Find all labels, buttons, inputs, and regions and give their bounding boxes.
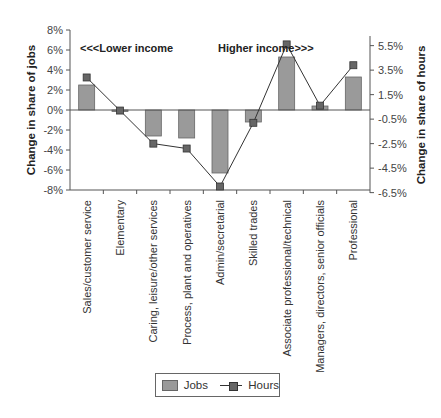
legend-hours: Hours <box>248 379 279 391</box>
svg-text:Process, plant and operatives: Process, plant and operatives <box>181 200 193 345</box>
svg-text:1.5%: 1.5% <box>378 89 403 101</box>
chart: 8%6%4%2%0%-2%-4%-6%-8% 5.5%3.5%1.5%-0.5%… <box>0 0 441 418</box>
svg-text:2%: 2% <box>47 84 63 96</box>
svg-text:Managers, directors, senior of: Managers, directors, senior officials <box>314 200 326 373</box>
svg-text:Elementary: Elementary <box>114 200 126 256</box>
annotation-higher-income: Higher income>>> <box>218 42 314 54</box>
svg-text:-6.5%: -6.5% <box>378 187 407 199</box>
svg-text:8%: 8% <box>47 24 63 36</box>
svg-text:Admin/secretarial: Admin/secretarial <box>214 200 226 285</box>
svg-text:0%: 0% <box>47 104 63 116</box>
svg-text:-0.5%: -0.5% <box>378 113 407 125</box>
svg-text:-4%: -4% <box>43 144 63 156</box>
legend-jobs: Jobs <box>184 379 208 391</box>
svg-text:Professional: Professional <box>347 200 359 261</box>
svg-text:Skilled trades: Skilled trades <box>247 200 259 267</box>
svg-text:Sales/customer service: Sales/customer service <box>81 200 93 314</box>
svg-text:-4.5%: -4.5% <box>378 162 407 174</box>
legend: Jobs Hours <box>155 373 280 397</box>
right-axis: 5.5%3.5%1.5%-0.5%-2.5%-4.5%-6.5% <box>370 36 407 199</box>
svg-text:3.5%: 3.5% <box>378 64 403 76</box>
svg-text:Caring, leisure/other services: Caring, leisure/other services <box>147 200 159 343</box>
svg-text:Associate professional/technic: Associate professional/technical <box>281 200 293 357</box>
svg-text:5.5%: 5.5% <box>378 40 403 52</box>
left-axis-title: Change in share of jobs <box>25 45 37 175</box>
svg-text:-2.5%: -2.5% <box>378 138 407 150</box>
hours-swatch <box>220 385 242 386</box>
svg-text:4%: 4% <box>47 64 63 76</box>
svg-text:6%: 6% <box>47 44 63 56</box>
jobs-swatch <box>162 380 178 391</box>
category-labels: Sales/customer serviceElementaryCaring, … <box>81 200 360 373</box>
jobs-bars <box>79 57 362 173</box>
svg-text:-8%: -8% <box>43 184 63 196</box>
svg-text:-6%: -6% <box>43 164 63 176</box>
right-axis-title: Change in share of hours <box>415 46 427 185</box>
annotation-lower-income: <<<Lower income <box>80 42 173 54</box>
svg-text:-2%: -2% <box>43 124 63 136</box>
